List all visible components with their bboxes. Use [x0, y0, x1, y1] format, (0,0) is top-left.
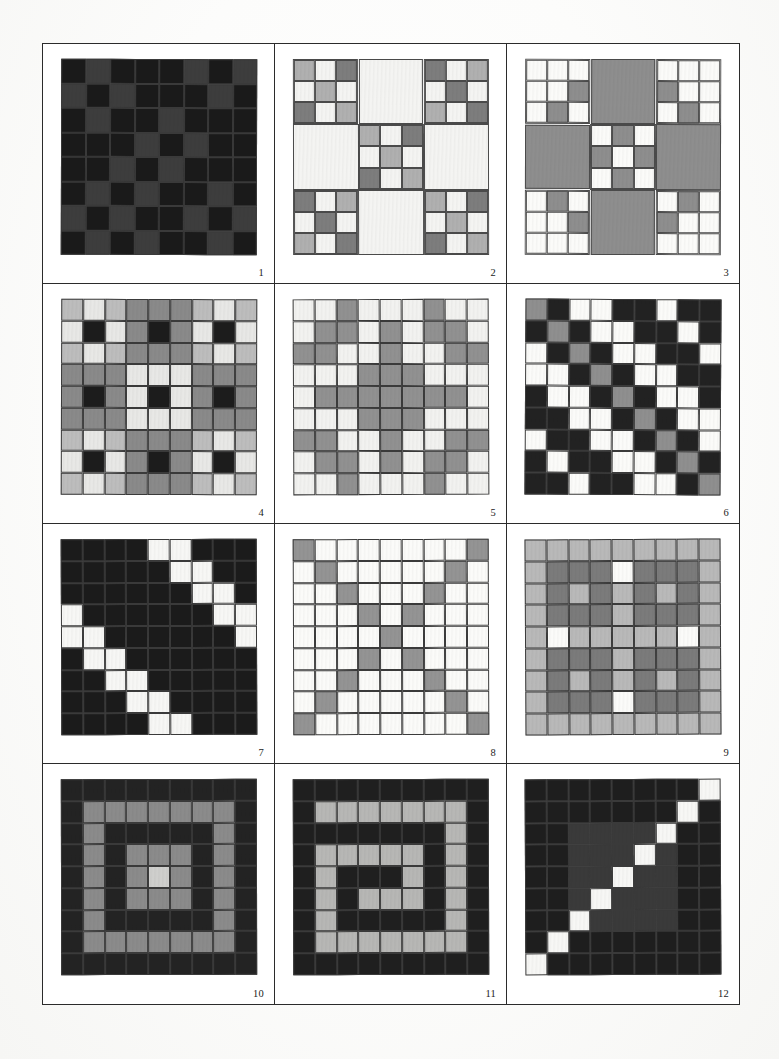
pattern-square: [235, 822, 257, 844]
pattern-square: [677, 538, 699, 560]
pattern-square: [293, 932, 315, 954]
pattern-square: [169, 451, 191, 473]
pattern-square: [677, 647, 699, 669]
patch-block-nine: [292, 59, 357, 124]
pattern-square: [423, 582, 445, 604]
pattern-square: [234, 538, 256, 560]
pattern-square: [126, 844, 148, 866]
pattern-square: [169, 604, 191, 626]
pattern-square: [191, 625, 213, 647]
pattern-square: [634, 953, 656, 975]
pattern-square: [148, 364, 170, 386]
pattern-square: [634, 931, 656, 953]
pattern-figure: [525, 779, 721, 975]
pattern-square: [213, 538, 235, 560]
pattern-square: [590, 473, 612, 495]
pattern-square: [126, 931, 148, 953]
pattern-square: [126, 866, 148, 888]
pattern-square: [359, 167, 380, 188]
pattern-figure: [293, 59, 489, 255]
pattern-square: [547, 932, 569, 954]
pattern-square: [82, 953, 104, 975]
pattern-square: [170, 691, 192, 713]
pattern-plate: 123456789101112: [42, 43, 740, 1005]
pattern-grid: [60, 298, 257, 495]
pattern-square: [314, 823, 336, 845]
pattern-square: [207, 206, 232, 231]
pattern-square: [401, 407, 423, 429]
pattern-square: [213, 801, 235, 823]
pattern-square: [82, 429, 104, 451]
pattern-square: [569, 669, 591, 691]
pattern-square: [401, 385, 423, 407]
pattern-grid: [60, 779, 256, 975]
pattern-square: [547, 910, 569, 932]
pattern-square: [358, 451, 380, 473]
pattern-square: [293, 408, 315, 430]
pattern-square: [401, 167, 422, 188]
patch-block-solid: [292, 123, 358, 189]
pattern-square: [634, 647, 656, 669]
pattern-square: [191, 691, 213, 713]
pattern-square: [126, 691, 148, 713]
pattern-square: [467, 712, 489, 734]
pattern-square: [104, 713, 126, 735]
patch-block-solid: [358, 189, 424, 255]
pattern-square: [232, 230, 257, 255]
pattern-square: [158, 205, 183, 230]
pattern-square: [315, 473, 337, 495]
pattern-square: [526, 101, 547, 122]
pattern-square: [82, 932, 104, 954]
pattern-square: [401, 822, 423, 844]
pattern-square: [590, 866, 612, 888]
pattern-square: [109, 156, 134, 181]
pattern-square: [547, 232, 568, 253]
pattern-square: [60, 385, 82, 407]
pattern-square: [467, 342, 489, 364]
pattern-square: [294, 232, 315, 253]
pattern-square: [336, 190, 357, 211]
pattern-square: [358, 931, 380, 953]
pattern-square: [423, 822, 445, 844]
pattern-number-label: 2: [491, 267, 496, 278]
pattern-square: [568, 801, 590, 823]
pattern-square: [612, 953, 634, 975]
pattern-square: [612, 626, 634, 648]
pattern-square: [445, 81, 466, 102]
pattern-square: [634, 146, 655, 167]
pattern-square: [466, 59, 487, 80]
patch-block-nine: [423, 58, 488, 123]
pattern-square: [612, 407, 634, 429]
pattern-square: [467, 953, 489, 975]
pattern-square: [423, 844, 445, 866]
pattern-square: [235, 342, 257, 364]
pattern-square: [358, 364, 380, 386]
pattern-square: [148, 386, 170, 408]
pattern-square: [591, 691, 613, 713]
pattern-square: [292, 321, 314, 343]
pattern-square: [82, 320, 104, 342]
pattern-square: [235, 801, 257, 823]
pattern-square: [634, 844, 656, 866]
pattern-square: [292, 561, 314, 583]
pattern-square: [379, 364, 401, 386]
pattern-square: [699, 386, 721, 408]
pattern-square: [547, 320, 569, 342]
pattern-square: [699, 931, 721, 953]
pattern-square: [546, 539, 568, 561]
pattern-square: [678, 691, 700, 713]
pattern-square: [655, 604, 677, 626]
pattern-square: [293, 888, 315, 910]
pattern-square: [207, 230, 232, 255]
pattern-square: [633, 167, 654, 188]
pattern-square: [232, 108, 257, 133]
pattern-square: [104, 866, 126, 888]
pattern-square: [700, 953, 722, 975]
pattern-square: [336, 102, 357, 123]
pattern-square: [148, 647, 170, 669]
pattern-square: [61, 58, 86, 83]
pattern-square: [656, 232, 677, 253]
pattern-square: [191, 299, 213, 321]
pattern-square: [423, 407, 445, 429]
pattern-square: [85, 205, 110, 230]
